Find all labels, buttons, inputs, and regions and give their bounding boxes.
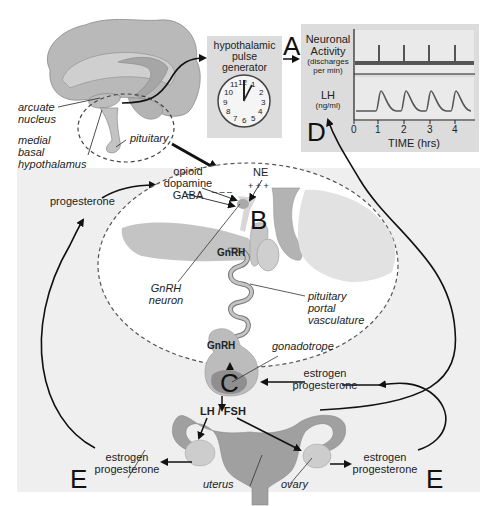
label-gaba: GABA <box>162 189 214 201</box>
xtick-2: 2 <box>401 125 407 135</box>
pg-line3: generator <box>207 62 282 73</box>
label-feedback-right: estrogen progesterone <box>350 451 420 475</box>
label-gnrh-top: GnRH <box>217 247 245 259</box>
mbh-line3: hypothalamus <box>18 158 87 170</box>
arcuate-line1: arcuate <box>18 101 56 113</box>
label-gnrh-neuron: GnRH neuron <box>146 282 186 306</box>
neuronal-activity-label: Neuronal Activity (discharges per min) <box>302 33 354 75</box>
label-ovary: ovary <box>281 478 308 490</box>
label-medial-basal-hypothalamus: medial basal hypothalamus <box>18 134 87 170</box>
lh-title: LH <box>302 89 354 101</box>
marker-D: D <box>307 119 326 145</box>
xtick-3: 3 <box>427 125 433 135</box>
label-feedback-center: estrogen progesterone <box>290 367 360 391</box>
marker-A: A <box>283 33 300 59</box>
diagram-graphics <box>0 0 491 506</box>
fc-line1: estrogen <box>290 367 360 379</box>
na-units2: per min) <box>302 66 354 75</box>
clock-num-5: 5 <box>251 114 255 124</box>
clock-num-9: 9 <box>223 98 227 108</box>
xtick-0: 0 <box>351 125 357 135</box>
inhibitory-inputs: opioid dopamine GABA <box>162 165 214 201</box>
fr-line2: progesterone <box>350 463 420 475</box>
gnrh-neuron-line2: neuron <box>146 294 186 306</box>
label-opioid: opioid <box>162 165 214 177</box>
fc-line2: progesterone <box>290 379 360 391</box>
label-gnrh-bottom: GnRH <box>207 340 235 352</box>
na-units1: (discharges <box>302 57 354 66</box>
label-lh-fsh: LH / FSH <box>200 405 246 417</box>
label-dopamine: dopamine <box>162 177 214 189</box>
clock-num-1: 1 <box>251 80 255 90</box>
xtick-4: 4 <box>452 125 458 135</box>
marker-E-right: E <box>426 466 443 492</box>
clock-num-4: 4 <box>258 107 262 117</box>
gnrh-neuron-line1: GnRH <box>146 282 186 294</box>
label-pituitary: pituitary <box>130 132 169 144</box>
clock-num-6: 6 <box>242 116 246 126</box>
fl-line2: progesterone <box>92 463 162 475</box>
label-arcuate-nucleus: arcuate nucleus <box>18 101 56 125</box>
gnrh-neuron-cell <box>237 199 249 209</box>
label-progesterone-top: progesterone <box>50 195 115 207</box>
clock-num-12: 12 <box>238 78 247 88</box>
lh-label: LH (ng/ml) <box>302 89 354 110</box>
clock-num-8: 8 <box>226 107 230 117</box>
mbh-line1: medial <box>18 134 87 146</box>
na-line2: Activity <box>302 45 354 57</box>
marker-C: C <box>220 370 239 396</box>
plus-signs: + + + <box>248 180 269 192</box>
clock-num-7: 7 <box>233 114 237 124</box>
ovary-right <box>303 444 331 468</box>
arcuate-line2: nucleus <box>18 113 56 125</box>
label-uterus: uterus <box>203 478 234 490</box>
lh-units: (ng/ml) <box>302 101 354 110</box>
fr-line1: estrogen <box>350 451 420 463</box>
fl-line1: estrogen <box>92 451 162 463</box>
x-axis-label: TIME (hrs) <box>388 137 440 149</box>
label-pituitary-portal: pituitary portal vasculature <box>308 290 364 326</box>
clock-num-2: 2 <box>259 88 263 98</box>
ppv-line3: vasculature <box>308 314 364 326</box>
clock-num-11: 11 <box>230 80 238 90</box>
minus-signs: – – – <box>212 186 232 198</box>
xtick-1: 1 <box>375 125 381 135</box>
label-ne: NE <box>253 166 268 178</box>
mbh-line2: basal <box>18 146 87 158</box>
marker-B: B <box>250 207 267 233</box>
marker-E-left: E <box>70 466 87 492</box>
ppv-line2: portal <box>308 302 364 314</box>
pulse-generator-title: hypothalamic pulse generator <box>207 40 282 73</box>
na-line1: Neuronal <box>302 33 354 45</box>
ppv-line1: pituitary <box>308 290 364 302</box>
chart-plot-bottom <box>354 77 474 119</box>
label-gonadotrope: gonadotrope <box>272 340 334 352</box>
label-feedback-left: estrogen progesterone <box>92 451 162 475</box>
